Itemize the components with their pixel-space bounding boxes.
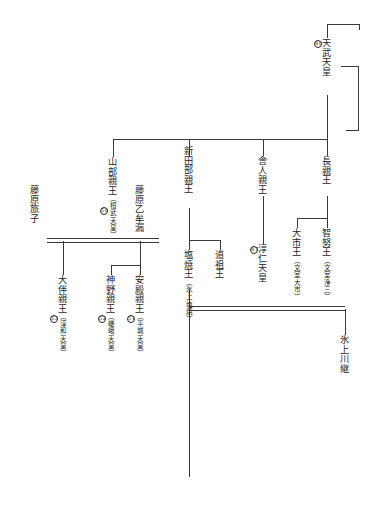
node-shioyaki[interactable]: 塩焼王（氷上塩焼）: [183, 250, 193, 322]
node-label-kamino: 神野親王: [105, 275, 115, 313]
line-drop-naga: [327, 139, 328, 156]
line-drop-chinu: [327, 218, 328, 228]
line-drop-kawatsugu: [345, 309, 346, 335]
line-temmu-top-drop-right: [359, 24, 360, 30]
line-temmu-top-bar: [327, 24, 360, 25]
node-funado[interactable]: 道祖王: [214, 250, 224, 279]
node-label-niitabe: 新田部親王: [183, 146, 193, 194]
node-alias-yamabe: （桓武天皇）: [108, 195, 115, 238]
line-marriage-shioyaki: [189, 306, 345, 311]
line-drop-kamino: [111, 265, 112, 275]
node-alias-otomo: （淳和天皇）: [58, 313, 65, 356]
line-temmu-spine: [327, 95, 328, 139]
node-label-chinu: 智努王: [321, 228, 331, 257]
node-chinu[interactable]: 智努王（文室浄三）: [321, 228, 331, 300]
node-otomuro[interactable]: 藤原乙牟漏: [134, 185, 144, 233]
node-label-shioyaki: 塩焼王: [183, 250, 193, 279]
node-label-toneri: 舎人親王: [257, 156, 267, 194]
node-label-kawatsugu: 氷上川継: [339, 335, 349, 373]
line-drop-shioyaki: [189, 240, 190, 250]
node-label-otomuro: 藤原乙牟漏: [134, 185, 144, 233]
line-drop-ate: [140, 265, 141, 275]
line-tabiko-to-otomo: [63, 241, 64, 275]
node-yamabe[interactable]: 50 山部親王（桓武天皇）: [107, 157, 117, 239]
node-label-tabiko: 藤原旅子: [29, 185, 39, 223]
node-alias-chinu: （文室浄三）: [322, 257, 329, 300]
line-temmu-right-bracket-top: [341, 66, 359, 67]
line-toneri-to-junnin: [263, 196, 264, 244]
node-toneri[interactable]: 舎人親王: [257, 156, 267, 194]
node-tabiko[interactable]: 藤原旅子: [29, 185, 39, 223]
node-label-yamabe: 山部親王: [107, 157, 117, 195]
line-naga-spine: [327, 196, 328, 218]
node-kawatsugu[interactable]: 氷上川継: [339, 335, 349, 373]
node-naga[interactable]: 長親王: [321, 156, 331, 185]
node-alias-shioyaki: （氷上塩焼）: [184, 279, 191, 322]
node-junnin[interactable]: 47 淳仁天皇: [257, 244, 267, 282]
node-ate[interactable]: 51 安殿親王（平城天皇）: [134, 275, 144, 357]
node-label-ochi: 大市王: [291, 228, 301, 257]
line-niitabe-spine: [189, 208, 190, 240]
node-alias-ate: （平城天皇）: [135, 313, 142, 356]
node-label-ate: 安殿親王: [134, 275, 144, 313]
line-naga-children-bar: [297, 218, 328, 219]
line-shioyaki-bottom-bar: [189, 476, 190, 477]
node-label-naga: 長親王: [321, 156, 331, 185]
line-otomuro-spine: [140, 241, 141, 265]
node-label-otomo: 大伴親王: [57, 275, 67, 313]
line-to-yamabe-column: [113, 139, 190, 140]
node-otomo[interactable]: 53 大伴親王（淳和天皇）: [57, 275, 67, 357]
node-ochi[interactable]: 大市王（文室大市）: [291, 228, 301, 300]
line-yamabe-drop: [113, 139, 114, 157]
node-niitabe[interactable]: 新田部親王: [183, 146, 193, 194]
line-temmu-right-bracket-bottom: [346, 130, 359, 131]
line-drop-ochi: [297, 218, 298, 228]
node-alias-kamino: （嵯峨天皇）: [106, 313, 113, 356]
node-kamino[interactable]: 52 神野親王（嵯峨天皇）: [105, 275, 115, 357]
line-drop-funado: [220, 240, 221, 250]
node-alias-ochi: （文室大市）: [292, 257, 299, 300]
line-niitabe-children-bar: [189, 240, 220, 241]
line-drop-toneri: [263, 139, 264, 156]
node-label-funado: 道祖王: [214, 250, 224, 279]
line-otomuro-children-bar: [111, 265, 141, 266]
line-temmu-right-bracket-v: [358, 66, 359, 130]
node-temmu[interactable]: 40 天武天皇: [321, 38, 331, 76]
line-temmu-top-drop-left: [327, 24, 328, 38]
line-temmu-children-bar: [189, 139, 328, 140]
genealogy-chart: 40 天武天皇 長親王 智努王（文室浄三） 大市王（文室大市） 舎人親王 47 …: [0, 0, 374, 507]
